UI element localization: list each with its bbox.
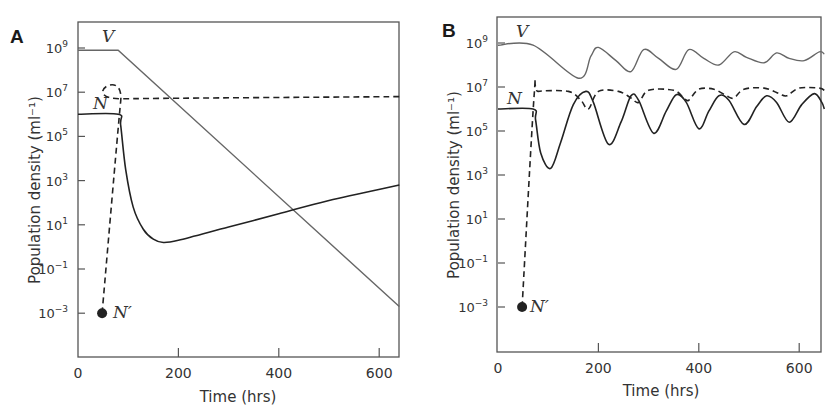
y-tick-label: 101 xyxy=(46,216,68,233)
y-tick-label: 10−3 xyxy=(38,304,68,321)
panel-letter-b: B xyxy=(442,20,456,41)
y-tick-label: 109 xyxy=(46,39,69,56)
x-tick-label: 400 xyxy=(685,360,712,376)
series-line-n xyxy=(78,114,399,243)
x-tick-label: 0 xyxy=(74,365,83,381)
y-tick-label: 109 xyxy=(466,34,489,51)
series-label-v-b: V xyxy=(516,21,530,41)
x-axis-label-a: Time (hrs) xyxy=(199,388,277,406)
series-line-nprime xyxy=(102,85,399,313)
series-label-v-a: V xyxy=(102,26,116,46)
y-tick-label: 103 xyxy=(46,172,68,189)
panel-a: A 10910710510310110−110−3 0200400600 Pop… xyxy=(10,22,399,406)
series-label-nprime-a: N′ xyxy=(112,302,132,322)
start-marker-nprime xyxy=(97,308,107,318)
x-tick-label: 200 xyxy=(165,365,192,381)
y-tick-label: 103 xyxy=(466,166,488,183)
x-tick-label: 400 xyxy=(265,365,292,381)
y-axis-label-a: Population density (ml⁻¹) xyxy=(26,96,44,284)
panel-b: B 10910710510310110−110−3 0200400600 Pop… xyxy=(442,17,824,400)
x-ticks-a: 0200400600 xyxy=(74,348,393,381)
series-b xyxy=(498,43,824,312)
panel-letter-a: A xyxy=(10,26,24,47)
series-label-n-a: N xyxy=(92,93,109,113)
figure: A 10910710510310110−110−3 0200400600 Pop… xyxy=(0,0,836,419)
y-tick-label: 10−3 xyxy=(458,298,488,315)
start-marker-nprime xyxy=(517,302,527,312)
y-axis-label-b: Population density (ml⁻¹) xyxy=(445,91,463,279)
y-tick-label: 101 xyxy=(466,210,488,227)
x-tick-label: 0 xyxy=(494,360,503,376)
y-tick-label: 105 xyxy=(46,127,68,144)
series-line-v xyxy=(498,43,824,79)
x-tick-label: 600 xyxy=(786,360,813,376)
y-tick-label: 107 xyxy=(46,83,68,100)
series-line-nprime xyxy=(522,79,824,307)
series-line-n xyxy=(498,91,824,168)
series-label-nprime-b: N′ xyxy=(529,296,549,316)
series-line-v xyxy=(78,50,399,306)
series-a xyxy=(78,50,399,318)
x-tick-label: 200 xyxy=(585,360,612,376)
series-label-n-b: N xyxy=(506,88,523,108)
y-tick-label: 105 xyxy=(466,122,488,139)
y-ticks-b: 10910710510310110−110−3 xyxy=(458,34,505,315)
y-tick-label: 107 xyxy=(466,78,488,95)
x-axis-label-b: Time (hrs) xyxy=(622,382,700,400)
x-ticks-b: 0200400600 xyxy=(494,343,813,376)
x-tick-label: 600 xyxy=(366,365,393,381)
